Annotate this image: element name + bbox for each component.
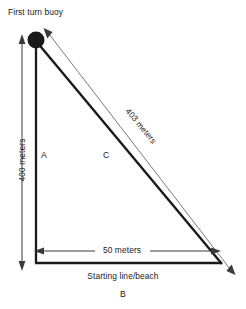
hypotenuse-dimension-arrow <box>44 28 236 275</box>
buoy-marker-icon <box>28 32 45 49</box>
vertical-dimension-label: 400 meters <box>18 139 26 182</box>
baseline-caption-label: Starting line/beach <box>0 272 246 280</box>
side-a-label: A <box>41 151 47 160</box>
diagram-canvas: First turn buoy 400 meters 403 meters 50… <box>0 0 246 309</box>
triangle-diagram-svg <box>0 0 246 309</box>
triangle-hypotenuse-c <box>36 41 222 264</box>
horizontal-dimension-label: 50 meters <box>103 246 141 254</box>
buoy-title-label: First turn buoy <box>8 8 63 16</box>
side-b-label: B <box>0 290 246 299</box>
side-c-label: C <box>103 151 109 160</box>
